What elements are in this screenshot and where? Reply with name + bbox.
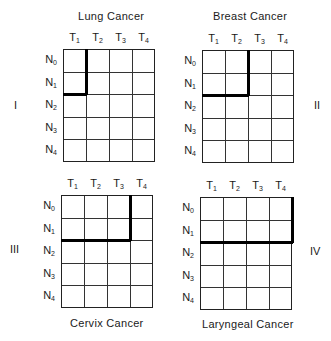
grid-line <box>62 285 152 286</box>
boundary-line-horizontal <box>61 239 131 242</box>
boundary-line-horizontal <box>200 241 293 244</box>
column-label-t2: T2 <box>223 179 246 192</box>
grid-line <box>62 263 152 264</box>
grid-line <box>62 218 152 219</box>
column-label-t3: T3 <box>248 32 271 45</box>
staging-grid <box>202 50 294 163</box>
row-label-n2: N2 <box>176 99 196 112</box>
row-label-n1: N1 <box>37 76 57 89</box>
boundary-line-vertical <box>129 195 132 241</box>
column-label-t3: T3 <box>246 179 269 192</box>
row-label-n4: N4 <box>37 143 57 156</box>
column-label-t4: T4 <box>269 179 292 192</box>
row-label-n4: N4 <box>176 144 196 157</box>
panel-title: Lung Cancer <box>78 10 144 22</box>
column-label-t2: T2 <box>86 31 109 44</box>
column-label-t1: T1 <box>63 31 86 44</box>
grid-line <box>132 50 133 161</box>
grid-line <box>84 196 85 307</box>
grid-line <box>271 51 272 162</box>
column-label-t1: T1 <box>61 177 84 190</box>
column-label-t2: T2 <box>84 177 107 190</box>
row-label-n3: N3 <box>37 121 57 134</box>
row-label-n2: N2 <box>37 98 57 111</box>
grid-line <box>246 198 247 309</box>
grid-line <box>225 51 226 162</box>
staging-grid <box>63 49 155 162</box>
row-label-n0: N0 <box>176 54 196 67</box>
grid-line <box>107 196 108 307</box>
grid-line <box>223 198 224 309</box>
column-label-t2: T2 <box>225 32 248 45</box>
grid-line <box>201 265 291 266</box>
grid-line <box>203 140 293 141</box>
boundary-line-horizontal <box>202 94 249 97</box>
row-label-n3: N3 <box>174 269 194 282</box>
row-label-n2: N2 <box>174 246 194 259</box>
column-label-t1: T1 <box>200 179 223 192</box>
column-label-t3: T3 <box>109 31 132 44</box>
boundary-line-vertical <box>85 49 88 95</box>
row-label-n4: N4 <box>174 291 194 304</box>
row-label-n0: N0 <box>174 201 194 214</box>
row-label-n3: N3 <box>176 122 196 135</box>
column-label-t3: T3 <box>107 177 130 190</box>
panel-title: Laryngeal Cancer <box>202 318 294 330</box>
boundary-line-vertical <box>291 197 294 243</box>
grid-line <box>201 287 291 288</box>
boundary-line-horizontal <box>63 93 87 96</box>
row-label-n1: N1 <box>35 222 55 235</box>
row-label-n2: N2 <box>35 244 55 257</box>
grid-line <box>64 72 154 73</box>
staging-grid <box>200 197 292 310</box>
row-label-n1: N1 <box>176 77 196 90</box>
column-label-t4: T4 <box>132 31 155 44</box>
column-label-t4: T4 <box>130 177 153 190</box>
panel-numeral: IV <box>310 245 320 257</box>
panel-numeral: III <box>10 243 19 255</box>
panel-numeral: I <box>14 99 17 111</box>
grid-line <box>203 118 293 119</box>
staging-grid <box>61 195 153 308</box>
row-label-n0: N0 <box>35 199 55 212</box>
grid-line <box>201 220 291 221</box>
panel-title: Breast Cancer <box>213 10 287 22</box>
row-label-n0: N0 <box>37 53 57 66</box>
column-label-t4: T4 <box>271 32 294 45</box>
boundary-line-vertical <box>247 50 250 96</box>
panel-numeral: II <box>314 99 320 111</box>
row-label-n1: N1 <box>174 224 194 237</box>
grid-line <box>269 198 270 309</box>
column-label-t1: T1 <box>202 32 225 45</box>
grid-line <box>64 139 154 140</box>
row-label-n3: N3 <box>35 267 55 280</box>
grid-line <box>64 117 154 118</box>
row-label-n4: N4 <box>35 289 55 302</box>
grid-line <box>109 50 110 161</box>
panel-title: Cervix Cancer <box>70 317 144 329</box>
